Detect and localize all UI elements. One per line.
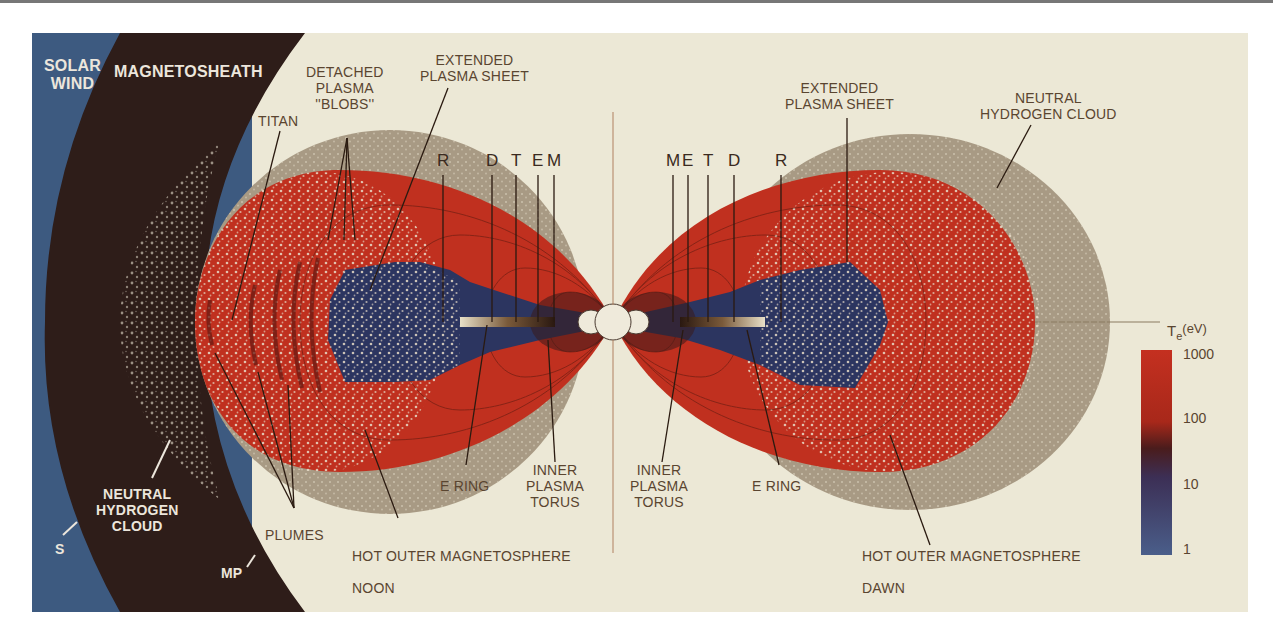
moon-letter-left-r: R	[437, 151, 449, 171]
saturn-magnetosphere-diagram: SOLAR WIND MAGNETOSHEATH NEUTRAL HYDROGE…	[0, 0, 1273, 641]
colorbar-tick-100: 100	[1183, 410, 1206, 426]
e-ring-right	[680, 317, 765, 327]
label-mp-boundary: MP	[221, 565, 242, 581]
label-plumes: PLUMES	[265, 527, 324, 543]
moon-letter-right-r: R	[775, 151, 787, 171]
moon-letter-left-e: E	[532, 151, 543, 171]
label-neutral-hydrogen-cloud-right: NEUTRAL HYDROGEN CLOUD	[980, 90, 1117, 122]
colorbar-tick-1: 1	[1183, 541, 1191, 557]
moon-letter-right-d: D	[728, 151, 740, 171]
label-inner-plasma-torus-right: INNER PLASMA TORUS	[630, 462, 688, 510]
moon-letter-left-m: M	[547, 151, 561, 171]
label-e-ring-left: E RING	[440, 478, 489, 494]
moon-letter-left-d: D	[486, 151, 498, 171]
label-dawn: DAWN	[862, 580, 905, 596]
label-extended-plasma-sheet-left: EXTENDED PLASMA SHEET	[420, 52, 529, 84]
temperature-colorbar	[1141, 350, 1172, 555]
label-hot-outer-magnetosphere-left: HOT OUTER MAGNETOSPHERE	[352, 548, 571, 564]
saturn-planet	[595, 304, 631, 340]
moon-letter-left-t: T	[511, 151, 521, 171]
label-solar-wind: SOLAR WIND	[44, 57, 101, 93]
label-magnetosheath: MAGNETOSHEATH	[114, 63, 263, 81]
label-e-ring-right: E RING	[752, 478, 801, 494]
label-neutral-hydrogen-cloud-left: NEUTRAL HYDROGEN CLOUD	[96, 486, 179, 534]
label-s-boundary: S	[55, 541, 65, 557]
label-noon: NOON	[352, 580, 395, 596]
label-detached-plasma-blobs: DETACHED PLASMA ''BLOBS''	[306, 64, 384, 112]
moon-letter-right-e: E	[682, 151, 693, 171]
e-ring-left	[460, 317, 555, 327]
label-extended-plasma-sheet-right: EXTENDED PLASMA SHEET	[785, 80, 894, 112]
label-titan: TITAN	[258, 113, 298, 129]
colorbar-title: Te(eV)	[1167, 321, 1207, 342]
moon-letter-right-m: M	[666, 151, 680, 171]
colorbar-title-symbol: T	[1167, 322, 1176, 339]
label-inner-plasma-torus-left: INNER PLASMA TORUS	[526, 462, 584, 510]
colorbar-title-unit: (eV)	[1182, 321, 1207, 336]
colorbar-tick-10: 10	[1183, 476, 1199, 492]
colorbar-tick-1000: 1000	[1183, 346, 1214, 362]
label-hot-outer-magnetosphere-right: HOT OUTER MAGNETOSPHERE	[862, 548, 1081, 564]
moon-letter-right-t: T	[703, 151, 713, 171]
